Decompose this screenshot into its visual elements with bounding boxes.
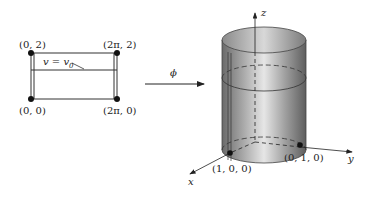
v-equals-v0-label: v = v0 xyxy=(43,57,74,70)
z-axis-label: z xyxy=(261,8,266,18)
corner-label-bottom-right: (2π, 0) xyxy=(103,106,136,116)
corner-label-top-left: (0, 2) xyxy=(19,40,46,50)
y-axis-label: y xyxy=(348,154,354,164)
phi-label: ϕ xyxy=(170,68,177,78)
point-label-1-0-0: (1, 0, 0) xyxy=(212,164,252,174)
corner-points xyxy=(28,50,120,102)
diagram-canvas xyxy=(0,0,372,197)
corner-label-top-right: (2π, 2) xyxy=(103,40,136,50)
point-label-0-1-0: (0, 1, 0) xyxy=(284,153,324,163)
x-axis-label: x xyxy=(188,177,194,187)
corner-label-bottom-left: (0, 0) xyxy=(19,106,46,116)
